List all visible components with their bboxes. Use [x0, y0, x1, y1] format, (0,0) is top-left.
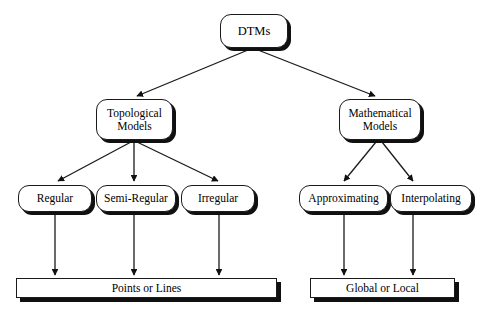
node-interpolating[interactable]: Interpolating [390, 185, 472, 212]
node-mathematical-models[interactable]: Mathematical Models [339, 99, 421, 140]
edge-mathematical-to-approximating [344, 142, 376, 181]
node-dtms[interactable]: DTMs [220, 14, 288, 48]
edge-dtms-to-topological [137, 50, 248, 96]
dtm-classification-diagram: DTMs Topological Models Mathematical Mod… [0, 0, 483, 311]
edge-mathematical-to-interpolating [382, 142, 413, 181]
node-irregular-label: Irregular [194, 192, 242, 205]
node-approximating[interactable]: Approximating [299, 185, 388, 212]
node-global-or-local[interactable]: Global or Local [310, 278, 455, 298]
node-points-or-lines-label: Points or Lines [108, 282, 186, 295]
node-global-or-local-label: Global or Local [342, 282, 423, 295]
node-interpolating-label: Interpolating [397, 192, 464, 205]
node-topological-models-label: Topological Models [103, 107, 166, 133]
node-approximating-label: Approximating [304, 192, 382, 205]
node-irregular[interactable]: Irregular [181, 185, 255, 212]
node-semi-regular-label: Semi-Regular [100, 192, 172, 205]
node-mathematical-models-label: Mathematical Models [344, 107, 415, 133]
node-topological-models[interactable]: Topological Models [96, 99, 173, 140]
node-semi-regular[interactable]: Semi-Regular [96, 185, 176, 212]
edge-topological-to-irregular [137, 142, 218, 181]
node-dtms-label: DTMs [234, 24, 275, 38]
edge-dtms-to-mathematical [258, 50, 375, 96]
node-points-or-lines[interactable]: Points or Lines [16, 278, 277, 298]
node-regular[interactable]: Regular [18, 185, 92, 212]
edge-topological-to-regular [58, 142, 131, 181]
node-regular-label: Regular [33, 192, 77, 205]
